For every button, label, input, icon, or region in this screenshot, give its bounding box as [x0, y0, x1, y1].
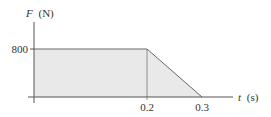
impulse-area: [34, 49, 202, 97]
x-tick-label-0.3: 0.3: [195, 101, 209, 113]
chart-canvas: 800 0.2 0.3 F (N) t (s): [0, 0, 271, 117]
y-axis-variable: F: [25, 7, 33, 19]
force-time-chart: 800 0.2 0.3 F (N) t (s): [0, 0, 271, 117]
y-tick-label: 800: [12, 43, 29, 55]
x-axis-label: t (s): [238, 91, 259, 104]
x-tick-label-0.2: 0.2: [140, 101, 154, 113]
y-axis-label: F (N): [25, 7, 54, 20]
x-axis-variable: t: [238, 91, 242, 103]
x-axis-unit: (s): [247, 91, 259, 104]
y-axis-unit: (N): [38, 7, 54, 20]
